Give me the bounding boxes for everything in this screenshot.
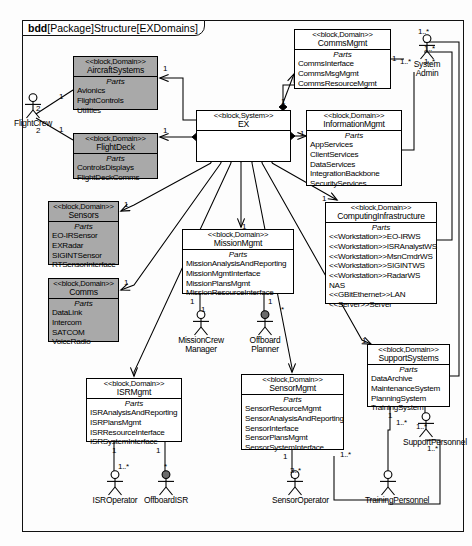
multiplicity-label: 2: [36, 104, 40, 113]
actor-figure-icon: [254, 310, 276, 336]
diagram-title-rest: [Package]Structure[EXDomains]: [47, 22, 198, 34]
multiplicity-label: 1: [283, 452, 287, 461]
block-isrmgmt[interactable]: <<block,Domain>>ISRMgmtPartsISRAnalysisA…: [86, 378, 182, 442]
multiplicity-label: 1: [124, 200, 128, 209]
multiplicity-label: 1: [163, 126, 167, 135]
actor-missioncrewmgr[interactable]: MissionCrewManager: [178, 310, 224, 354]
block-header: <<block,Domain>>ISRMgmt: [87, 379, 181, 399]
parts-compartment-label: Parts: [52, 299, 115, 309]
block-header: <<block,Domain>>Sensors: [49, 202, 118, 222]
block-name: ISRMgmt: [89, 388, 179, 397]
diagram-frame-label: bdd[Package]Structure[EXDomains]: [22, 20, 205, 36]
part-item: Intercom: [52, 318, 115, 328]
part-item: ISRSystemInterface: [90, 437, 178, 447]
block-informationmgmt[interactable]: <<block,Domain>>InformationMgmtPartsAppS…: [306, 110, 402, 186]
parts-compartment: PartsSensorResourceMgmtSensorAnalysisAnd…: [242, 395, 343, 454]
multiplicity-label: 1..*: [418, 27, 429, 36]
multiplicity-label: 2: [36, 126, 40, 135]
actor-figure-icon: [22, 93, 44, 119]
part-item: <<Workstation>>MsnCmdrWS: [329, 252, 433, 262]
part-item: EO-IRSensor: [52, 231, 115, 241]
part-item: <<Workstation>>RadarWS: [329, 271, 433, 281]
block-ex[interactable]: <<block,System>>EX: [196, 110, 291, 162]
block-name: MissionMgmt: [185, 239, 291, 248]
part-item: Avionics: [77, 86, 154, 96]
block-flightdeck[interactable]: <<block,Domain>>FlightDeckPartsControlsD…: [73, 133, 158, 179]
actor-isroperator[interactable]: ISROperator: [92, 470, 138, 505]
actor-offboardplanner[interactable]: OffboardPlanner: [242, 310, 288, 354]
part-item: FlightDeckComms: [77, 173, 154, 183]
part-item: DataArchive: [371, 374, 446, 384]
block-name: InformationMgmt: [309, 120, 399, 129]
part-item: FlightControls: [77, 96, 154, 106]
part-item: MissionResourceInterface: [186, 288, 290, 298]
multiplicity-label: 1..*: [427, 444, 438, 453]
block-aircraftsystems[interactable]: <<block,Domain>>AircraftSystemsPartsAvio…: [73, 56, 158, 110]
block-supportsystems[interactable]: <<block,Domain>>SupportSystemsPartsDataA…: [367, 344, 450, 407]
actor-figure-icon: [155, 470, 177, 496]
block-name: Sensors: [51, 211, 116, 220]
parts-compartment: PartsAvionicsFlightControlsUtilities: [74, 77, 157, 117]
part-item: SATCOM: [52, 328, 115, 338]
part-item: AppServices: [310, 140, 398, 150]
block-header: <<block,Domain>>CommsMgmt: [295, 30, 390, 50]
block-name: SensorMgmt: [244, 384, 341, 393]
block-header: <<block,Domain>>MissionMgmt: [183, 230, 293, 250]
diagram-canvas: bdd[Package]Structure[EXDomains]: [0, 0, 472, 546]
multiplicity-label: 1: [59, 125, 63, 134]
block-sensors[interactable]: <<block,Domain>>SensorsPartsEO-IRSensorE…: [48, 201, 119, 265]
part-item: <<Workstation>>EO-IRWS: [329, 232, 433, 242]
block-header: <<block,System>>EX: [197, 111, 290, 131]
actor-flightcrew[interactable]: FlightCrew: [10, 93, 56, 128]
multiplicity-label: 1: [268, 297, 272, 306]
part-item: MissionPlansMgmt: [186, 279, 290, 289]
multiplicity-label: 1..*: [396, 418, 407, 427]
parts-compartment-label: Parts: [245, 395, 340, 405]
block-sensormgmt[interactable]: <<block,Domain>>SensorMgmtPartsSensorRes…: [241, 374, 344, 450]
parts-compartment: PartsAppServicesClientServicesDataServic…: [307, 131, 401, 190]
part-item: NAS: [329, 281, 433, 291]
parts-compartment: PartsISRAnalysisAndReportingISRPlansMgmt…: [87, 399, 181, 449]
block-name: ComputingInfrastructure: [328, 212, 434, 221]
part-item: SIGINTSensor: [52, 251, 115, 261]
block-header: <<block,Domain>>SupportSystems: [368, 345, 449, 365]
multiplicity-label: 1..*: [424, 44, 435, 53]
block-computinginfrastructure[interactable]: <<block,Domain>>ComputingInfrastructureP…: [325, 202, 437, 304]
block-name: CommsMgmt: [297, 39, 388, 48]
block-comms[interactable]: <<block,Domain>>CommsPartsDataLinkInterc…: [48, 278, 119, 342]
part-item: ISRAnalysisAndReporting: [90, 408, 178, 418]
part-item: SecurityServices: [310, 179, 398, 189]
multiplicity-label: 1: [124, 278, 128, 287]
block-missionmgmt[interactable]: <<block,Domain>>MissionMgmtPartsMissionA…: [182, 229, 294, 294]
actor-offboardisr[interactable]: OffboardISR: [143, 470, 189, 505]
multiplicity-label: 1..*: [400, 57, 411, 66]
actor-label: FlightCrew: [10, 119, 56, 128]
parts-compartment-label: Parts: [298, 50, 387, 60]
part-item: ISRResourceInterface: [90, 428, 178, 438]
actor-sensoroperator[interactable]: SensorOperator: [272, 470, 318, 505]
actor-label: ISROperator: [92, 496, 138, 505]
parts-compartment: PartsMissionAnalysisAndReportingMissionM…: [183, 250, 293, 300]
part-item: SensorSystemInterface: [245, 443, 340, 453]
part-item: DataServices: [310, 160, 398, 170]
multiplicity-label: 1: [190, 297, 194, 306]
actor-figure-icon: [377, 470, 399, 496]
multiplicity-label: 1: [163, 64, 167, 73]
part-item: SensorAnalysisAndReporting: [245, 414, 340, 424]
parts-compartment: PartsControlsDisplaysFlightDeckComms: [74, 154, 157, 184]
parts-compartment-label: Parts: [371, 365, 446, 375]
multiplicity-label: 1..*: [118, 462, 129, 471]
block-commsmgmt[interactable]: <<block,Domain>>CommsMgmtPartsCommsInter…: [294, 29, 391, 89]
multiplicity-label: 1: [388, 411, 392, 420]
part-item: ClientServices: [310, 150, 398, 160]
part-item: DataLink: [52, 308, 115, 318]
part-item: PlanningSystem: [371, 394, 446, 404]
block-header: <<block,Domain>>AircraftSystems: [74, 57, 157, 77]
actor-trainingpersonnel[interactable]: TrainingPersonnel: [365, 470, 411, 505]
block-name: EX: [199, 120, 288, 129]
parts-compartment-label: Parts: [77, 154, 154, 164]
multiplicity-label: *: [164, 462, 167, 471]
parts-compartment: PartsDataArchiveMaintenanceSystemPlannin…: [368, 365, 449, 415]
actor-figure-icon: [104, 470, 126, 496]
part-item: MaintenanceSystem: [371, 384, 446, 394]
